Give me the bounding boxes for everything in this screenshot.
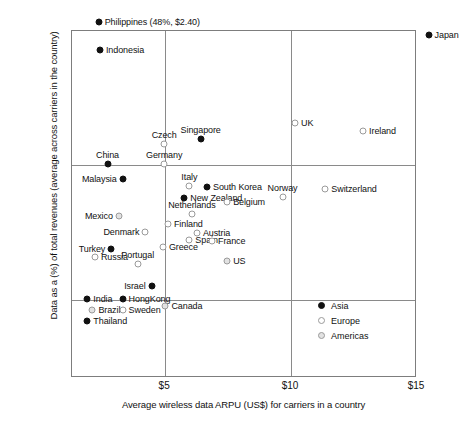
legend-marker-icon <box>318 332 325 339</box>
data-point[interactable] <box>203 184 210 191</box>
x-axis-title: Average wireless data ARPU (US$) for car… <box>71 399 416 410</box>
data-point-label: Canada <box>171 301 202 311</box>
x-tick-label: $15 <box>396 380 436 391</box>
gridline-vertical <box>291 31 292 376</box>
legend-item: Europe <box>318 313 369 328</box>
data-point[interactable] <box>224 199 231 206</box>
data-point-label: Czech <box>152 130 177 140</box>
data-point[interactable] <box>104 161 111 168</box>
legend: AsiaEuropeAmericas <box>318 298 369 343</box>
data-point-label: Italy <box>181 172 197 182</box>
x-tick-label: $5 <box>144 380 184 391</box>
data-point[interactable] <box>161 141 168 148</box>
data-point-label: Philippines (48%, $2.40) <box>105 17 200 27</box>
data-point[interactable] <box>292 119 299 126</box>
data-point[interactable] <box>119 306 126 313</box>
gridline-vertical <box>165 31 166 376</box>
data-point[interactable] <box>186 183 193 190</box>
data-point[interactable] <box>209 238 216 245</box>
data-point-label: Singapore <box>181 125 221 135</box>
data-point[interactable] <box>91 254 98 261</box>
data-point-label: Mexico <box>85 211 113 221</box>
data-point-label: Netherlands <box>168 200 215 210</box>
data-point-label: France <box>218 236 245 246</box>
legend-item: Asia <box>318 298 369 313</box>
data-point[interactable] <box>84 317 91 324</box>
data-point-label: Denmark <box>103 227 139 237</box>
data-point-label: Ireland <box>369 126 396 136</box>
data-point[interactable] <box>95 18 102 25</box>
data-point-label: Greece <box>169 242 198 252</box>
data-point-label: Brazil <box>98 305 120 315</box>
legend-marker-icon <box>318 302 325 309</box>
data-point[interactable] <box>279 193 286 200</box>
legend-label: Americas <box>331 331 369 341</box>
data-point[interactable] <box>425 32 432 39</box>
data-point-label: Germany <box>146 150 182 160</box>
data-point[interactable] <box>188 211 195 218</box>
legend-marker-icon <box>318 317 325 324</box>
data-point-label: US <box>233 256 245 266</box>
y-axis-title: Data as a (%) of total revenues (average… <box>48 11 59 341</box>
data-point[interactable] <box>148 282 155 289</box>
data-point[interactable] <box>96 47 103 54</box>
legend-label: Asia <box>331 301 349 311</box>
data-point[interactable] <box>119 295 126 302</box>
data-point-label: Indonesia <box>106 45 144 55</box>
scatter-plot-figure: Data as a (%) of total revenues (average… <box>0 0 476 427</box>
data-point[interactable] <box>164 220 171 227</box>
data-point-label: India <box>93 294 112 304</box>
data-point[interactable] <box>134 261 141 268</box>
data-point-label: Portugal <box>121 250 154 260</box>
data-point[interactable] <box>89 306 96 313</box>
x-tick-label: $10 <box>270 380 310 391</box>
data-point[interactable] <box>84 295 91 302</box>
data-point[interactable] <box>360 127 367 134</box>
data-point-label: Japan <box>435 30 459 40</box>
gridline-horizontal <box>72 165 415 166</box>
data-point[interactable] <box>322 185 329 192</box>
data-point-label: Norway <box>268 183 298 193</box>
data-point[interactable] <box>159 243 166 250</box>
data-point[interactable] <box>197 135 204 142</box>
data-point-label: Switzerland <box>331 184 376 194</box>
data-point[interactable] <box>224 258 231 265</box>
data-point[interactable] <box>115 212 122 219</box>
data-point[interactable] <box>119 176 126 183</box>
data-point-label: Belgium <box>233 197 265 207</box>
data-point-label: UK <box>301 118 313 128</box>
legend-item: Americas <box>318 328 369 343</box>
data-point-label: China <box>96 150 119 160</box>
data-point[interactable] <box>142 228 149 235</box>
data-point-label: South Korea <box>213 182 262 192</box>
data-point-label: Malaysia <box>82 174 117 184</box>
data-point-label: Sweden <box>129 305 161 315</box>
data-point-label: Thailand <box>93 316 127 326</box>
data-point[interactable] <box>162 302 169 309</box>
legend-label: Europe <box>331 316 360 326</box>
data-point[interactable] <box>161 161 168 168</box>
data-point-label: Israel <box>124 281 145 291</box>
data-point-label: Finland <box>174 219 203 229</box>
